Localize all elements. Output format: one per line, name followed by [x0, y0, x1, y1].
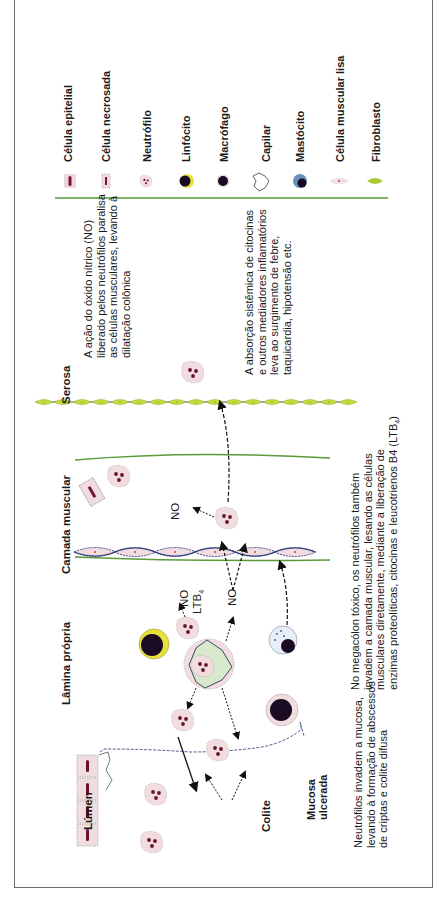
ltb4-subscript: 4	[198, 590, 205, 594]
layer-label-lamina-propria: Lâmina própria	[60, 622, 72, 705]
mediator-no-muscular: NO	[169, 503, 181, 520]
megacolon-end: )	[387, 416, 399, 420]
legend-label-macrophage: Macrófago	[218, 106, 230, 162]
legend-label-fibroblast: Fibroblasto	[370, 102, 382, 162]
megacolon-subscript: 4	[394, 420, 401, 424]
mediator-no-macrophage: NO	[226, 589, 238, 606]
layer-label-lumen: Lúmen	[82, 792, 94, 830]
layer-label-serosa: Serosa	[60, 366, 72, 404]
legend-label-neutrophil: Neutrófilo	[141, 110, 153, 162]
label-ulcerated-mucosa: Mucosa ulcerada	[305, 775, 329, 820]
macrophage-star-cell	[184, 639, 234, 689]
text-no-action: A ação do óxido nítrico (NO) liberado pe…	[82, 194, 132, 358]
mediator-no-lamina: NO	[178, 590, 190, 607]
legend-label-epithelial-cell: Célula epitelial	[62, 85, 74, 162]
legend-icons	[64, 173, 383, 191]
legend-label-mast-cell: Mastócito	[294, 111, 306, 162]
legend-label-necrotic-cell: Célula necrosada	[100, 71, 112, 162]
text-neutrophil-invasion: Neutrófilos invadem a mucosa, levando à …	[352, 681, 390, 848]
ltb4-text: LTB	[191, 594, 203, 614]
legend-label-smooth-muscle-cell: Célula muscular lisa	[334, 56, 346, 162]
layer-label-muscular: Camada muscular	[60, 475, 72, 574]
text-systemic-absorption: A absorção sistêmica de citocinas e outr…	[243, 209, 293, 375]
mediator-ltb4: LTB4	[191, 590, 205, 614]
legend-label-lymphocyte: Linfócito	[180, 116, 192, 162]
serosa-layer	[35, 400, 357, 405]
muscle-layer	[74, 548, 330, 561]
label-colitis: Colite	[260, 800, 272, 832]
legend-label-capillary: Capilar	[260, 125, 272, 162]
text-toxic-megacolon: No megacólon tóxico, os neutrófilos tamb…	[349, 416, 404, 690]
megacolon-text: No megacólon tóxico, os neutrófilos tamb…	[349, 424, 399, 690]
